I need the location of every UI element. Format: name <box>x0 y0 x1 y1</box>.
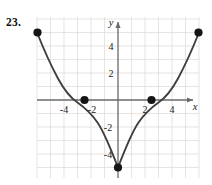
point-right-endpoint <box>194 28 202 36</box>
point-vertex <box>114 163 122 171</box>
point-left-endpoint <box>33 28 41 36</box>
x-tick-label-neg4: -4 <box>60 104 68 115</box>
y-tick-label-neg2: -2 <box>104 122 112 133</box>
y-tick-label-2: 2 <box>109 68 114 79</box>
point-right-x-intercept <box>147 96 155 104</box>
coordinate-plane-svg: x y -4 -2 2 4 4 2 -2 -4 <box>0 0 212 185</box>
y-tick-label-4: 4 <box>109 41 114 52</box>
figure-page: 23. <box>0 0 212 185</box>
axes <box>37 22 193 178</box>
x-axis-label: x <box>192 101 198 112</box>
point-left-x-intercept <box>80 96 88 104</box>
y-axis-label: y <box>108 17 114 28</box>
y-axis-arrowhead <box>115 22 120 28</box>
x-tick-label-4: 4 <box>170 104 175 115</box>
graph-figure: x y -4 -2 2 4 4 2 -2 -4 <box>0 0 212 185</box>
